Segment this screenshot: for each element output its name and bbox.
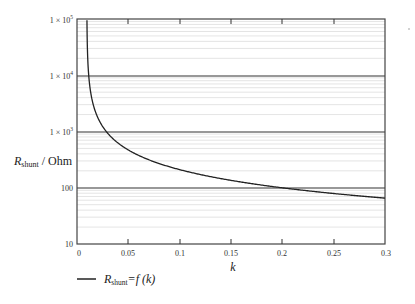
x-axis-label: k — [230, 260, 236, 274]
x-tick-5: 0.25 — [327, 249, 341, 258]
x-tick-4: 0.2 — [277, 249, 287, 258]
minor-gridlines — [77, 22, 385, 227]
series-line-rshunt — [87, 20, 385, 198]
y-tick-100: 100 — [61, 184, 73, 193]
x-tick-labels: 0 0.05 0.1 0.15 0.2 0.25 0.3 — [77, 249, 391, 258]
y-tick-1e5: 1 × 105 — [50, 14, 74, 25]
legend-label: Rshunt=f (k) — [103, 272, 155, 287]
major-gridlines — [77, 76, 385, 188]
y-axis-label: Rshunt / Ohm — [13, 154, 73, 169]
y-tick-10: 10 — [65, 240, 73, 249]
stray-mark — [408, 28, 410, 30]
x-tick-6: 0.3 — [381, 249, 391, 258]
x-tick-2: 0.1 — [175, 249, 185, 258]
y-tick-1e3: 1 × 103 — [50, 126, 74, 137]
y-tick-labels: 10 100 1 × 103 1 × 104 1 × 105 — [50, 14, 74, 249]
x-tick-1: 0.05 — [121, 249, 135, 258]
y-tick-1e4: 1 × 104 — [50, 70, 74, 81]
chart: 0 0.05 0.1 0.15 0.2 0.25 0.3 10 100 1 × … — [0, 0, 415, 304]
x-tick-0: 0 — [77, 249, 81, 258]
x-tick-3: 0.15 — [224, 249, 238, 258]
legend: Rshunt=f (k) — [77, 272, 155, 287]
